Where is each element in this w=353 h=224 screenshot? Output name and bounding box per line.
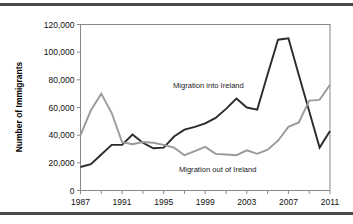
y-tick-label: 120,000 [44,20,75,30]
x-tick-label: 1999 [196,197,215,207]
x-tick-label: 1995 [154,197,173,207]
x-tick-label: 2003 [237,197,256,207]
y-axis-tick-labels: 020,00040,00060,00080,000100,000120,000 [44,20,75,196]
x-axis: 1987199119951999200320072011 [71,191,339,207]
line-chart: 020,00040,00060,00080,000100,000120,000 … [0,6,353,212]
series-annotation-label: Migration out of Ireland [179,165,257,174]
y-tick-label: 20,000 [49,158,75,168]
x-tick-label: 1987 [71,197,90,207]
data-series-group [81,38,331,167]
x-axis-ticks [81,191,331,195]
y-tick-label: 80,000 [49,75,75,85]
figure-container: 020,00040,00060,00080,000100,000120,000 … [0,0,353,224]
y-axis-ticks [77,25,81,191]
series-annotation-label: Migration into Ireland [173,81,244,90]
series-annotations: Migration into IrelandMigration out of I… [173,81,257,174]
y-tick-label: 40,000 [49,130,75,140]
x-tick-label: 2011 [321,197,340,207]
y-axis-title: Number of Immigrants [14,61,24,152]
y-tick-label: 100,000 [44,47,75,57]
y-tick-label: 0 [70,186,75,196]
x-axis-tick-labels: 1987199119951999200320072011 [71,197,339,207]
y-axis: 020,00040,00060,00080,000100,000120,000 [44,20,81,196]
y-tick-label: 60,000 [49,103,75,113]
x-tick-label: 2007 [279,197,298,207]
x-tick-label: 1991 [113,197,132,207]
bottom-divider-rule [0,212,353,215]
